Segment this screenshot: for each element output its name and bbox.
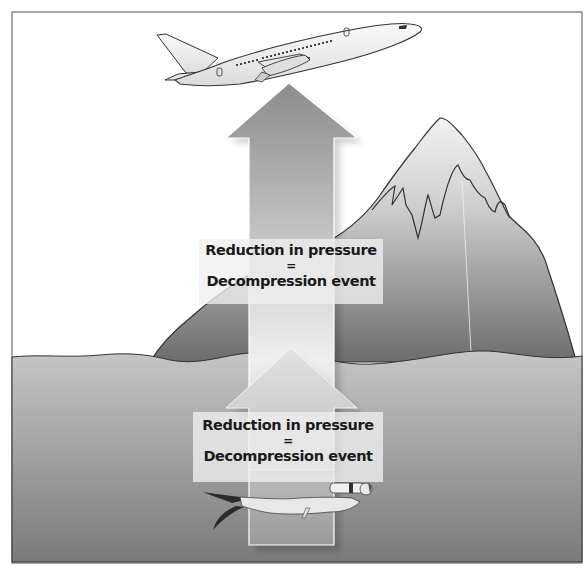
upper-label: Reduction in pressure = Decompression ev… <box>199 239 383 304</box>
lower-label-line3: Decompression event <box>193 447 383 466</box>
upper-label-line3: Decompression event <box>199 272 383 291</box>
lower-label-line1: Reduction in pressure <box>193 416 383 435</box>
upper-label-equals: = <box>199 260 383 272</box>
lower-label-equals: = <box>193 435 383 447</box>
decompression-diagram: Reduction in pressure = Decompression ev… <box>0 0 587 576</box>
lower-label: Reduction in pressure = Decompression ev… <box>193 412 383 482</box>
upper-label-line1: Reduction in pressure <box>199 241 383 260</box>
